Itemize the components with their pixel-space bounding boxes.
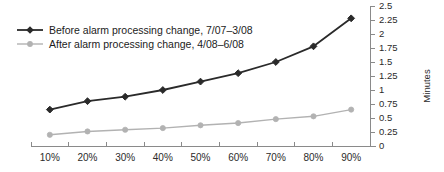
legend-item-after[interactable]: After alarm processing change, 4/08–6/08 (17, 38, 244, 50)
x-tick-label: 40% (153, 152, 173, 163)
legend-marker-circle (27, 41, 33, 47)
x-axis-tick-labels: 10%20%30%40%50%60%70%80%90% (40, 152, 361, 163)
data-point-marker (123, 127, 128, 132)
x-tick-label: 70% (266, 152, 286, 163)
y-tick-label: 0.5 (379, 112, 392, 123)
y-tick-label: 1.5 (379, 56, 392, 67)
chart-plot-area: 10%20%30%40%50%60%70%80%90% 00.250.50.75… (0, 0, 444, 172)
y-tick-label: 0.75 (379, 98, 398, 109)
y-axis-title: Minutes (421, 69, 432, 103)
data-point-marker (273, 117, 278, 122)
x-axis-ticks (31, 142, 370, 146)
legend-label: Before alarm processing change, 7/07–3/0… (49, 24, 253, 36)
data-point-marker (272, 59, 279, 66)
data-point-marker (349, 107, 354, 112)
y-tick-label: 2.5 (379, 0, 392, 11)
x-tick-label: 10% (40, 152, 60, 163)
x-tick-label: 80% (303, 152, 323, 163)
legend-label: After alarm processing change, 4/08–6/08 (49, 38, 244, 50)
y-axis-tick-labels: 00.250.50.7511.251.51.7522.252.5 (379, 0, 398, 151)
data-point-marker (159, 87, 166, 94)
x-tick-label: 90% (341, 152, 361, 163)
legend-marker-diamond (26, 26, 34, 34)
data-point-marker (197, 78, 204, 85)
data-point-marker (47, 132, 52, 137)
chart-legend: Before alarm processing change, 7/07–3/0… (17, 24, 253, 50)
data-point-marker (236, 120, 241, 125)
y-tick-label: 1 (379, 84, 384, 95)
x-tick-label: 60% (228, 152, 248, 163)
line-chart: 10%20%30%40%50%60%70%80%90% 00.250.50.75… (0, 0, 444, 172)
y-tick-label: 2 (379, 28, 384, 39)
series-line (50, 110, 351, 135)
data-point-marker (311, 114, 316, 119)
data-point-marker (198, 123, 203, 128)
y-tick-label: 1.25 (379, 70, 398, 81)
y-tick-label: 1.75 (379, 42, 398, 53)
x-tick-label: 20% (77, 152, 97, 163)
legend-item-before[interactable]: Before alarm processing change, 7/07–3/0… (17, 24, 253, 36)
data-point-marker (85, 129, 90, 134)
data-point-marker (160, 125, 165, 130)
data-point-marker (235, 70, 242, 77)
data-point-marker (46, 106, 53, 113)
y-tick-label: 2.25 (379, 14, 398, 25)
x-tick-label: 50% (190, 152, 210, 163)
data-point-marker (84, 98, 91, 105)
data-point-marker (122, 93, 129, 100)
x-tick-label: 30% (115, 152, 135, 163)
series-after (47, 107, 354, 137)
y-tick-label: 0 (379, 140, 384, 151)
y-tick-label: 0.25 (379, 126, 398, 137)
